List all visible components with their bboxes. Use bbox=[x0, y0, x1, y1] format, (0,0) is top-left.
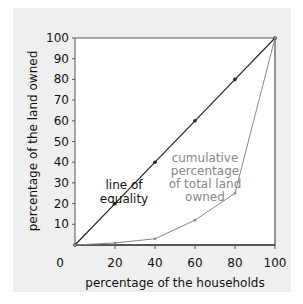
data-point bbox=[154, 237, 157, 240]
y-tick-label: 10 bbox=[54, 217, 69, 231]
data-point bbox=[193, 119, 197, 123]
y-tick-label: 90 bbox=[54, 52, 69, 66]
x-tick-label: 40 bbox=[147, 256, 162, 270]
data-point bbox=[194, 219, 197, 222]
data-point bbox=[233, 78, 237, 82]
y-tick-label: 70 bbox=[54, 93, 69, 107]
annotation-cumulative-land: percentage bbox=[171, 164, 239, 178]
data-point bbox=[274, 37, 277, 40]
data-point bbox=[114, 242, 117, 245]
data-point bbox=[234, 192, 237, 195]
annotation-cumulative-land: of total land bbox=[169, 177, 242, 191]
y-tick-label: 40 bbox=[54, 155, 69, 169]
y-tick-label: 30 bbox=[54, 176, 69, 190]
annotation-cumulative-land: cumulative bbox=[172, 151, 239, 165]
x-tick-label: 60 bbox=[187, 256, 202, 270]
x-tick-label: 0 bbox=[56, 256, 64, 270]
y-tick-label: 100 bbox=[46, 31, 69, 45]
y-tick-label: 20 bbox=[54, 197, 69, 211]
x-tick-label: 80 bbox=[227, 256, 242, 270]
y-tick-label: 50 bbox=[54, 135, 69, 149]
annotation-line-of-equality: line of bbox=[105, 178, 143, 192]
y-axis-label: percentage of the land owned bbox=[26, 51, 40, 232]
annotation-line-of-equality: equality bbox=[100, 192, 148, 206]
data-point bbox=[153, 160, 157, 164]
x-tick-label: 100 bbox=[264, 256, 287, 270]
x-axis-label: percentage of the households bbox=[85, 276, 264, 290]
y-tick-label: 80 bbox=[54, 72, 69, 86]
lorenz-curve-chart: 102030405060708090100020406080100percent… bbox=[0, 0, 303, 304]
annotation-cumulative-land: owned bbox=[185, 190, 225, 204]
data-point bbox=[74, 244, 77, 247]
y-tick-label: 60 bbox=[54, 114, 69, 128]
x-tick-label: 20 bbox=[107, 256, 122, 270]
